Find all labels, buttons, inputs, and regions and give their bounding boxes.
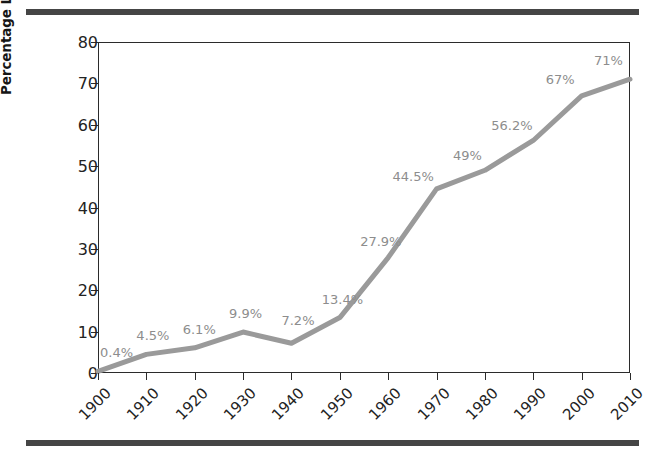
x-tick-label: 1910 bbox=[119, 384, 163, 428]
y-tick-label: 10 bbox=[52, 322, 98, 341]
x-tick-label: 1970 bbox=[409, 384, 453, 428]
x-tick-label: 1950 bbox=[313, 384, 357, 428]
page-rule-bottom bbox=[26, 440, 639, 446]
x-tick-label: 1980 bbox=[458, 384, 502, 428]
y-axis-ticks: 01020304050607080 bbox=[40, 0, 98, 455]
y-tick-label: 70 bbox=[52, 74, 98, 93]
data-point-label: 56.2% bbox=[491, 118, 532, 133]
x-tick-label: 1920 bbox=[168, 384, 212, 428]
x-tick-mark bbox=[582, 373, 583, 380]
x-tick-mark bbox=[98, 373, 99, 380]
x-tick-mark bbox=[485, 373, 486, 380]
data-point-label: 4.5% bbox=[136, 328, 169, 343]
x-tick-mark bbox=[437, 373, 438, 380]
x-tick-label: 1930 bbox=[216, 384, 260, 428]
chart-figure: Percentage Living in Urban Areas 0102030… bbox=[0, 0, 665, 455]
y-tick-label: 60 bbox=[52, 115, 98, 134]
page-rule-top bbox=[26, 9, 639, 15]
data-point-label: 0.4% bbox=[100, 345, 133, 360]
data-point-label: 71% bbox=[594, 53, 623, 68]
data-point-label: 13.4% bbox=[322, 292, 363, 307]
data-point-label: 67% bbox=[546, 72, 575, 87]
y-tick-label: 50 bbox=[52, 157, 98, 176]
x-tick-mark bbox=[291, 373, 292, 380]
x-tick-mark bbox=[533, 373, 534, 380]
y-axis-title: Percentage Living in Urban Areas bbox=[0, 0, 14, 95]
y-tick-label: 30 bbox=[52, 239, 98, 258]
y-tick-label: 20 bbox=[52, 281, 98, 300]
x-tick-label: 1960 bbox=[361, 384, 405, 428]
x-tick-label: 2010 bbox=[603, 384, 647, 428]
data-point-label: 27.9% bbox=[360, 234, 401, 249]
x-tick-mark bbox=[146, 373, 147, 380]
y-tick-label: 0 bbox=[52, 364, 98, 383]
data-point-label: 49% bbox=[453, 148, 482, 163]
x-tick-mark bbox=[388, 373, 389, 380]
x-tick-mark bbox=[630, 373, 631, 380]
x-tick-mark bbox=[340, 373, 341, 380]
x-tick-label: 1940 bbox=[264, 384, 308, 428]
plot-area bbox=[98, 42, 630, 373]
x-tick-mark bbox=[243, 373, 244, 380]
x-tick-mark bbox=[195, 373, 196, 380]
x-tick-label: 2000 bbox=[555, 384, 599, 428]
x-tick-label: 1990 bbox=[506, 384, 550, 428]
data-point-label: 7.2% bbox=[281, 313, 314, 328]
data-point-label: 6.1% bbox=[183, 322, 216, 337]
data-point-label: 44.5% bbox=[393, 169, 434, 184]
y-tick-label: 40 bbox=[52, 198, 98, 217]
y-tick-label: 80 bbox=[52, 33, 98, 52]
data-point-label: 9.9% bbox=[229, 306, 262, 321]
